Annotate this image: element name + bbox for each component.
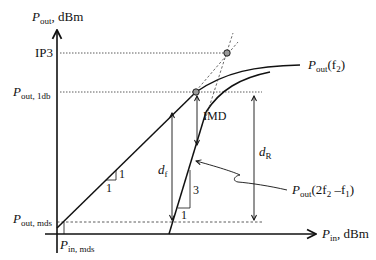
im3-linear-line [169,112,206,234]
imd-label: IMD [203,110,226,122]
fundamental-curve-label: Pout(f2) [308,58,345,74]
slope-fund-run: 1 [106,182,112,194]
df-label: df [158,163,168,179]
y-axis-label: Pout, dBm [32,10,83,26]
dynamic-range-diagram [0,0,376,260]
ip3-point [224,50,230,56]
p1db-label: Pout, 1db [13,85,50,101]
dr-label: dR [259,145,272,161]
im3-pointer [196,161,287,190]
slope-triangle-im3 [178,170,190,208]
im3-curve-label: Pout(2f2 –f1) [292,183,354,199]
slope-fund-rise: 1 [119,168,125,180]
slope-im3-rise: 3 [193,184,199,196]
x-axis-label: Pin, dBm [322,227,369,243]
slope-im3-run: 1 [181,209,187,221]
pin-mds-label: Pin, mds [60,238,94,254]
fundamental-linear-line [57,92,196,228]
pmds-label: Pout, mds [13,212,52,228]
p1db-point [193,89,199,95]
ip3-label: IP3 [35,46,53,59]
im3-extrapolation [205,33,233,120]
